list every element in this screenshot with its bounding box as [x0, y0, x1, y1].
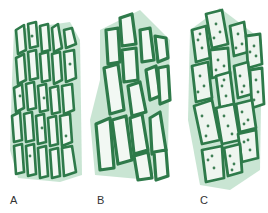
panel-label-a: A: [10, 194, 17, 206]
panel-label-b: B: [97, 194, 104, 206]
plant-cells-diagram: [0, 0, 268, 213]
panel-a-cells: [10, 22, 82, 182]
panel-label-c: C: [200, 194, 208, 206]
panel-b-cells: [90, 10, 170, 180]
panel-c-cells: [188, 8, 264, 190]
